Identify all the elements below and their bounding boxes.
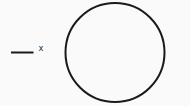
figure-canvas: x (0, 0, 190, 106)
circle-outline (66, 3, 165, 102)
figure-svg: x (0, 0, 190, 106)
x-mark: x (39, 43, 44, 53)
